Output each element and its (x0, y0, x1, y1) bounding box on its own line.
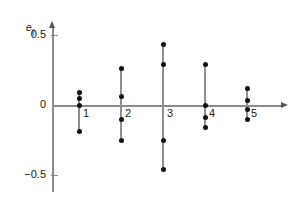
data-point (119, 66, 124, 71)
data-point (245, 86, 250, 91)
data-point (203, 115, 208, 120)
data-point (245, 117, 250, 122)
data-point (161, 138, 166, 143)
y-axis-tick (51, 175, 58, 176)
y-axis-tick-label: −0.5 (12, 169, 46, 180)
data-point (245, 98, 250, 103)
data-point (77, 96, 82, 101)
data-point (203, 125, 208, 130)
y-axis-tick (51, 35, 58, 36)
data-point (119, 94, 124, 99)
data-point (245, 107, 250, 112)
y-axis-line (52, 27, 54, 192)
data-stem-line (120, 69, 122, 140)
data-point (203, 103, 208, 108)
data-point (77, 103, 82, 108)
residual-scatter-plot: eij 0.50−0.512345 (0, 0, 296, 199)
data-point (77, 129, 82, 134)
x-axis-arrow-icon (281, 102, 288, 108)
data-point (203, 62, 208, 67)
data-point (119, 138, 124, 143)
x-axis-category-label-2: 2 (125, 108, 131, 119)
data-point (77, 90, 82, 95)
x-axis-category-label-4: 4 (209, 108, 215, 119)
x-axis-category-label-5: 5 (251, 108, 257, 119)
y-axis-arrow-icon (49, 21, 55, 28)
y-axis-tick-label: 0.5 (12, 29, 46, 40)
data-point (161, 62, 166, 67)
data-point (161, 42, 166, 47)
data-stem-line (246, 88, 248, 119)
data-point (161, 167, 166, 172)
data-point (119, 117, 124, 122)
x-axis-category-label-1: 1 (83, 108, 89, 119)
x-axis-category-label-3: 3 (167, 108, 173, 119)
y-axis-tick-label: 0 (12, 99, 46, 110)
